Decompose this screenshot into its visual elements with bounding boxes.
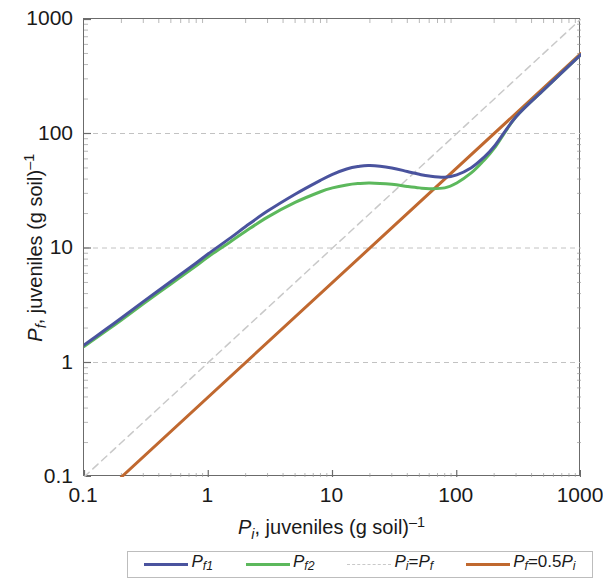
y-axis-title: Pf, juveniles (g soil)–1	[17, 0, 53, 498]
legend-swatch-1	[246, 563, 290, 566]
legend-label-3: Pf=0.5Pi	[513, 553, 575, 575]
legend-item-3[interactable]: Pf=0.5Pi	[466, 553, 575, 575]
x-axis-title-sup: –1	[409, 514, 425, 530]
chart-legend: Pf1Pf2Pi=PfPf=0.5Pi	[127, 551, 593, 578]
x-axis-title: Pi, juveniles (g soil)–1	[83, 510, 580, 546]
x-axis-title-var: P	[238, 516, 251, 538]
legend-swatch-3	[466, 563, 510, 566]
series-line-pf1	[84, 54, 581, 345]
plot-area	[83, 18, 580, 476]
legend-item-2[interactable]: Pi=Pf	[347, 553, 433, 575]
y-tick-label: 10	[50, 236, 73, 257]
legend-label-0: Pf1	[191, 553, 213, 575]
legend-swatch-0	[144, 563, 188, 566]
plot-canvas	[84, 19, 581, 477]
y-axis-title-var: P	[24, 328, 46, 341]
series-line-pf2	[84, 54, 581, 346]
x-tick-label: 1000	[557, 484, 603, 505]
series-line-pf-0-5pi	[121, 53, 581, 477]
x-axis-tick-labels: 0.11101001000	[83, 484, 580, 510]
x-tick-label: 100	[438, 484, 473, 505]
x-tick-label: 0.1	[68, 484, 97, 505]
y-axis-title-sup: –1	[21, 154, 37, 170]
legend-label-1: Pf2	[293, 553, 315, 575]
y-axis-title-text: , juveniles (g soil)	[24, 170, 46, 325]
x-tick-label: 10	[320, 484, 343, 505]
x-axis-title-text: , juveniles (g soil)	[255, 516, 410, 538]
y-tick-label: 1	[61, 351, 73, 372]
x-tick-label: 1	[201, 484, 213, 505]
legend-label-2: Pi=Pf	[394, 553, 433, 575]
legend-swatch-2	[347, 564, 391, 565]
legend-item-1[interactable]: Pf2	[246, 553, 315, 575]
legend-item-0[interactable]: Pf1	[144, 553, 213, 575]
y-axis-title-sub: f	[33, 324, 49, 328]
